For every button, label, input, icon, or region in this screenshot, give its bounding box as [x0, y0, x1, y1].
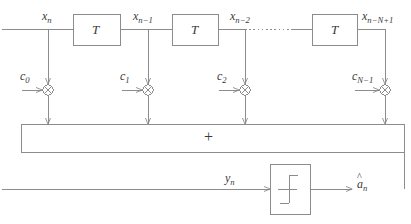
delay-block-label-1: T	[92, 23, 99, 36]
delay-block-label-2: T	[191, 23, 198, 36]
coefficient-label-1: c1	[120, 70, 130, 85]
adder-plus-sign: +	[204, 129, 213, 145]
delay-block-label-3: T	[331, 23, 338, 36]
coefficient-label-0: c0	[20, 70, 30, 85]
signal-label-tap0: xn	[42, 10, 52, 25]
coefficient-label-n-1: cN−1	[352, 70, 373, 85]
signal-label-decision-output: ^an	[357, 178, 367, 193]
diagram-lines	[0, 0, 411, 224]
signal-label-tap2: xn−2	[230, 10, 250, 25]
signal-label-tap1: xn−1	[133, 10, 153, 25]
coefficient-label-2: c2	[217, 70, 227, 85]
filter-block-diagram: xn xn−1 xn−2 xn−N+1 T T T c0 c1 c2 cN−1 …	[0, 0, 411, 224]
hat-accent: ^	[357, 172, 362, 182]
signal-label-sum-output: yn	[225, 172, 235, 187]
signal-label-tap3: xn−N+1	[362, 10, 393, 25]
